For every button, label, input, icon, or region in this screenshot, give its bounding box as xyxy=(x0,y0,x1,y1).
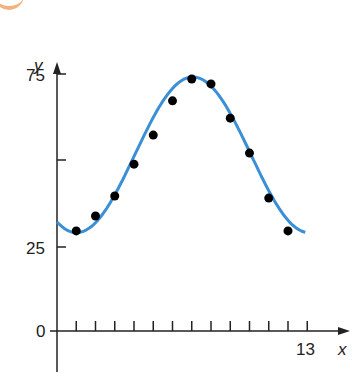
x-tick-13: 13 xyxy=(296,340,315,359)
data-point xyxy=(187,75,196,84)
y-axis-arrow-icon xyxy=(53,62,61,74)
fit-curve xyxy=(57,77,305,233)
x-axis-arrow-icon xyxy=(338,327,350,335)
data-point xyxy=(130,160,139,169)
y-tick-75: 75 xyxy=(26,66,45,85)
data-point xyxy=(207,79,216,88)
data-point xyxy=(245,149,254,158)
chart: y 75 25 0 13 x xyxy=(0,0,364,385)
data-point xyxy=(264,194,273,203)
data-point xyxy=(284,226,293,235)
x-axis-label: x xyxy=(337,340,347,359)
data-point xyxy=(168,96,177,105)
data-point xyxy=(226,114,235,123)
data-point xyxy=(72,226,81,235)
data-point xyxy=(149,131,158,140)
data-point xyxy=(110,191,119,200)
data-point xyxy=(91,212,100,221)
y-tick-0: 0 xyxy=(36,322,45,341)
x-ticks xyxy=(76,321,307,331)
y-tick-25: 25 xyxy=(26,239,45,258)
